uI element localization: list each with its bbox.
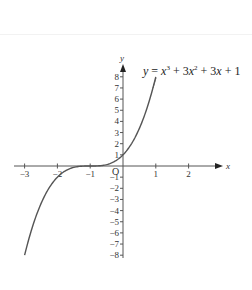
x-tick-label: 2 xyxy=(186,169,191,179)
y-tick-label: −7 xyxy=(109,239,119,249)
x-axis-label: x xyxy=(225,161,230,171)
y-tick-label: −5 xyxy=(109,217,119,227)
y-tick-label: 7 xyxy=(115,83,120,93)
x-tick-label: 1 xyxy=(154,169,159,179)
y-tick-label: −6 xyxy=(109,228,119,238)
cubic-graph: −3−2−11287654321−1−2−3−4−5−6−7−8 x y O y… xyxy=(0,0,252,290)
y-tick-label: 5 xyxy=(115,105,120,115)
y-tick-label: −8 xyxy=(109,250,119,260)
x-tick-label: −1 xyxy=(85,169,95,179)
y-tick-label: 4 xyxy=(115,116,120,126)
x-axis-arrow-icon xyxy=(215,163,223,169)
origin-label: O xyxy=(112,166,119,177)
y-tick-label: 8 xyxy=(115,72,120,82)
y-tick-label: 6 xyxy=(115,94,120,104)
y-axis-arrow-icon xyxy=(120,64,126,72)
y-tick-label: 2 xyxy=(115,139,120,149)
y-tick-label: −4 xyxy=(109,206,119,216)
equation-label: y = x3 + 3x2 + 3x + 1 xyxy=(142,64,240,78)
y-tick-label: −2 xyxy=(109,183,119,193)
y-axis-label: y xyxy=(119,53,124,63)
y-tick-label: −3 xyxy=(109,194,119,204)
x-tick-label: −3 xyxy=(20,169,30,179)
y-tick-label: 3 xyxy=(115,128,120,138)
